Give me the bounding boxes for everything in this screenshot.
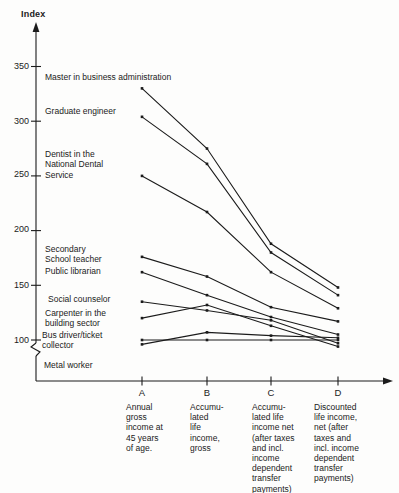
- column-desc-a: Annual gross income at 45 years of age.: [126, 402, 184, 453]
- column-desc-b: Accumu- lated life income, gross: [190, 402, 248, 453]
- series-label-librarian: Public librarian: [45, 266, 101, 276]
- series-label-metalworker: Metal worker: [44, 360, 93, 370]
- series-label-busdriver: Bus driver/ticket collector: [42, 330, 102, 351]
- column-desc-d: Discounted life income, net (after taxes…: [314, 402, 386, 484]
- x-tick-b: B: [197, 387, 217, 398]
- series-label-engineer: Graduate engineer: [45, 106, 116, 116]
- series-label-counselor: Social counselor: [48, 294, 110, 304]
- series-label-carpenter: Carpenter in the building sector: [45, 308, 106, 329]
- column-desc-c: Accumu- lated life income net (after tax…: [252, 402, 314, 493]
- x-tick-a: A: [132, 387, 152, 398]
- y-tick-150: 150: [6, 280, 29, 290]
- y-axis-title: Index: [21, 9, 46, 19]
- series-label-dentist: Dentist in the National Dental Service: [45, 149, 103, 180]
- x-tick-d: D: [328, 387, 348, 398]
- y-tick-250: 250: [6, 169, 29, 179]
- y-tick-200: 200: [6, 224, 29, 234]
- series-label-teacher: Secondary School teacher: [45, 244, 102, 265]
- series-label-mba: Master in business administration: [45, 72, 171, 82]
- income-index-chart: Index 350 300 250 200 150 100 Master in …: [0, 0, 399, 493]
- x-tick-c: C: [261, 387, 281, 398]
- y-tick-100: 100: [6, 335, 29, 345]
- y-tick-300: 300: [6, 116, 29, 126]
- y-tick-350: 350: [6, 61, 29, 71]
